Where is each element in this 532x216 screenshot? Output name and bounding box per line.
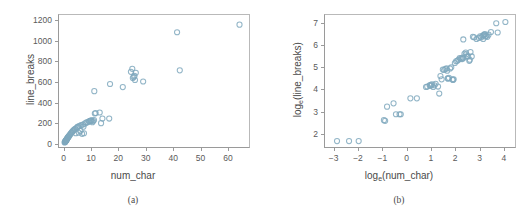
panel-b-x-axis-label-argument: (num_char) <box>382 170 433 181</box>
y-tick-mark <box>55 103 58 104</box>
x-tick-label: 60 <box>223 154 232 163</box>
x-tick-label: 0 <box>404 154 409 163</box>
x-tick-mark <box>228 148 229 151</box>
x-tick-label: 40 <box>168 154 177 163</box>
panel-a: line_breaks 020040060080010001200 010203… <box>0 0 266 216</box>
x-tick-mark <box>407 148 408 151</box>
panel-b-plot-area <box>324 14 516 148</box>
y-tick-mark <box>321 67 324 68</box>
panel-a-x-axis-label: num_char <box>0 170 266 181</box>
panel-a-x-axis-label-text: num_char <box>111 170 155 181</box>
x-tick-label: 10 <box>86 154 95 163</box>
x-tick-mark <box>146 148 147 151</box>
y-tick-mark <box>55 20 58 21</box>
x-tick-mark <box>382 148 383 151</box>
x-tick-label: 1 <box>429 154 434 163</box>
x-tick-mark <box>201 148 202 151</box>
y-tick-mark <box>55 41 58 42</box>
x-tick-label: 4 <box>501 154 506 163</box>
panel-a-data-points <box>59 15 249 147</box>
x-tick-label: 3 <box>477 154 482 163</box>
y-tick-mark <box>321 112 324 113</box>
y-tick-label: 4 <box>313 85 318 94</box>
y-tick-label: 800 <box>38 57 52 66</box>
panel-b-x-axis-label-base: log <box>365 170 378 181</box>
x-tick-mark <box>431 148 432 151</box>
x-tick-mark <box>334 148 335 151</box>
y-tick-mark <box>321 89 324 90</box>
y-tick-label: 1000 <box>33 37 52 46</box>
x-tick-mark <box>173 148 174 151</box>
x-tick-label: −1 <box>377 154 387 163</box>
y-tick-label: 600 <box>38 78 52 87</box>
y-tick-mark <box>55 144 58 145</box>
y-tick-label: 400 <box>38 98 52 107</box>
x-tick-mark <box>118 148 119 151</box>
x-tick-mark <box>358 148 359 151</box>
y-tick-mark <box>55 61 58 62</box>
x-tick-label: 0 <box>61 154 66 163</box>
y-tick-label: 2 <box>313 129 318 138</box>
panel-b-caption-text: (b) <box>393 195 404 205</box>
y-tick-mark <box>321 23 324 24</box>
panel-b-data-points <box>325 15 515 147</box>
y-tick-mark <box>55 82 58 83</box>
panel-a-y-axis-label-text: line_breaks <box>25 54 36 105</box>
x-tick-label: 20 <box>114 154 123 163</box>
x-tick-mark <box>480 148 481 151</box>
y-tick-label: 5 <box>313 63 318 72</box>
x-tick-label: 2 <box>453 154 458 163</box>
y-tick-mark <box>55 123 58 124</box>
panel-a-plot-area <box>58 14 250 148</box>
panel-b-y-axis-label-subscript: e <box>297 100 304 104</box>
x-tick-mark <box>504 148 505 151</box>
y-tick-mark <box>321 134 324 135</box>
panel-b-y-axis-label: loge(line_breaks) <box>292 10 304 150</box>
y-tick-label: 3 <box>313 107 318 116</box>
panel-a-caption-text: (a) <box>128 195 139 205</box>
x-tick-label: −3 <box>329 154 339 163</box>
panel-b-y-axis-label-base: log <box>292 104 303 117</box>
panel-a-caption: (a) <box>0 195 266 205</box>
x-tick-mark <box>455 148 456 151</box>
y-tick-label: 200 <box>38 119 52 128</box>
y-tick-label: 7 <box>313 19 318 28</box>
x-tick-label: 30 <box>141 154 150 163</box>
y-tick-label: 6 <box>313 41 318 50</box>
panel-b-x-axis-label: loge(num_char) <box>266 170 532 182</box>
panel-b: loge(line_breaks) 234567 −3−2−101234 log… <box>266 0 532 216</box>
panel-b-y-axis-label-argument: (line_breaks) <box>292 42 303 100</box>
y-tick-label: 1200 <box>33 16 52 25</box>
x-tick-label: −2 <box>353 154 363 163</box>
x-tick-label: 50 <box>196 154 205 163</box>
y-tick-label: 0 <box>47 140 52 149</box>
x-tick-mark <box>91 148 92 151</box>
two-panel-scatter-figure: line_breaks 020040060080010001200 010203… <box>0 0 532 216</box>
x-tick-mark <box>64 148 65 151</box>
panel-b-caption: (b) <box>266 195 532 205</box>
y-tick-mark <box>321 45 324 46</box>
